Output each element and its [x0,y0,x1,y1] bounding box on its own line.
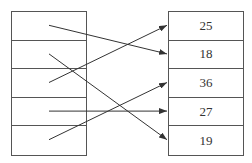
left-cell-4 [12,98,86,127]
right-cell-4: 27 [169,98,243,127]
left-cell-2 [12,41,86,70]
right-cell-3: 36 [169,69,243,98]
right-cell-2: 18 [169,41,243,70]
right-column: 25 18 36 27 19 [168,11,244,156]
right-cell-5: 19 [169,126,243,155]
left-column [11,11,87,156]
left-cell-5 [12,126,86,155]
left-cell-3 [12,69,86,98]
left-cell-1 [12,12,86,41]
right-cell-1: 25 [169,12,243,41]
